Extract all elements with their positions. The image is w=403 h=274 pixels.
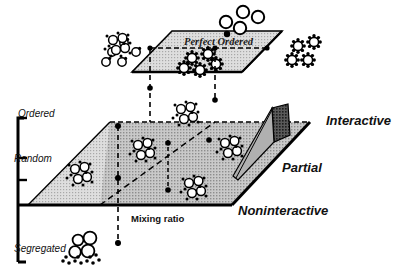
connector-node-a [147, 85, 153, 91]
axis-label-segregated: Segregated [14, 243, 66, 254]
axis-label-random: Random [14, 153, 52, 164]
axis-label-partial: Partial [282, 160, 322, 175]
guide-node-2 [115, 175, 121, 181]
flag-sail [272, 104, 290, 142]
node-top-right [264, 45, 269, 50]
guide-node-3 [115, 240, 121, 246]
guide-node-6 [206, 137, 212, 143]
axis-label-noninteractive: Noninteractive [238, 203, 328, 218]
cluster-segregated-stack [61, 232, 101, 265]
figure-canvas: Perfect Ordered [0, 0, 403, 274]
axis-label-ordered: Ordered [18, 108, 55, 119]
axis-label-mixing-ratio: Mixing ratio [131, 213, 185, 224]
connector-node-b [212, 97, 218, 103]
cluster-gear-rosette [284, 34, 322, 68]
axis-label-interactive: Interactive [326, 113, 391, 128]
guide-node-4 [165, 140, 171, 146]
ordering-axis [18, 118, 28, 262]
diagram-svg: Perfect Ordered [0, 0, 403, 274]
guide-node-1 [115, 123, 121, 129]
guide-node-5 [165, 187, 171, 193]
perfect-ordered-label: Perfect Ordered [184, 36, 254, 47]
